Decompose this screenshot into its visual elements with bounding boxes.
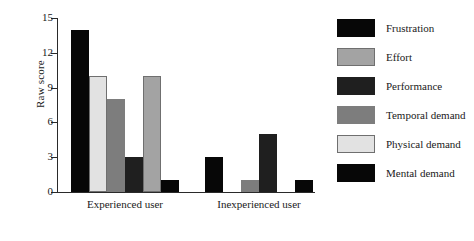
legend-label: Temporal demand bbox=[386, 109, 466, 121]
legend-item: Physical demand bbox=[337, 129, 466, 158]
bar bbox=[295, 180, 313, 192]
bar bbox=[125, 157, 143, 192]
chart-legend: FrustrationEffortPerformanceTemporal dem… bbox=[337, 13, 466, 187]
bar bbox=[259, 134, 277, 192]
legend-item: Frustration bbox=[337, 13, 466, 42]
y-axis-line bbox=[57, 18, 58, 192]
y-tick-label: 6 bbox=[48, 114, 54, 129]
legend-item: Temporal demand bbox=[337, 100, 466, 129]
group-label: Experienced user bbox=[65, 198, 185, 210]
legend-swatch bbox=[337, 135, 375, 153]
bar bbox=[241, 180, 259, 192]
legend-swatch bbox=[337, 106, 375, 124]
legend-swatch bbox=[337, 164, 375, 182]
legend-item: Effort bbox=[337, 42, 466, 71]
legend-swatch bbox=[337, 48, 375, 66]
plot-area: 03691215 Experienced userInexperienced u… bbox=[57, 18, 315, 192]
bar bbox=[89, 76, 107, 192]
legend-label: Performance bbox=[386, 80, 442, 92]
y-tick-label: 15 bbox=[42, 10, 53, 25]
y-tick-label: 3 bbox=[48, 149, 54, 164]
y-tick-label: 9 bbox=[48, 80, 54, 95]
legend-label: Physical demand bbox=[386, 138, 461, 150]
legend-item: Mental demand bbox=[337, 158, 466, 187]
bar bbox=[205, 157, 223, 192]
group-label: Inexperienced user bbox=[199, 198, 319, 210]
legend-swatch bbox=[337, 77, 375, 95]
legend-item: Performance bbox=[337, 71, 466, 100]
y-tick-label: 0 bbox=[48, 184, 54, 199]
bar-chart-figure: Raw score 03691215 Experienced userInexp… bbox=[0, 0, 474, 241]
legend-swatch bbox=[337, 19, 375, 37]
legend-label: Frustration bbox=[386, 22, 434, 34]
legend-label: Effort bbox=[386, 51, 412, 63]
bar bbox=[107, 99, 125, 192]
bar bbox=[143, 76, 161, 192]
y-axis-label: Raw score bbox=[34, 24, 46, 144]
bar bbox=[161, 180, 179, 192]
y-tick-label: 12 bbox=[42, 45, 53, 60]
x-axis-line bbox=[57, 192, 315, 193]
bar bbox=[71, 30, 89, 192]
legend-label: Mental demand bbox=[386, 167, 455, 179]
